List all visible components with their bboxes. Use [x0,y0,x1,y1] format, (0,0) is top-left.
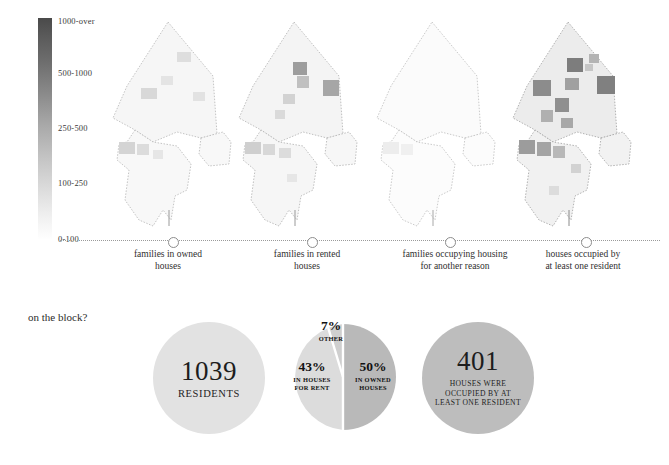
pie-label-other: 7% OTHER [302,319,360,343]
housing-tenure-pie-chart[interactable]: 7% OTHER 43% IN HOUSES FOR RENT 50% IN O… [288,322,398,432]
axis-tick-1[interactable] [168,237,179,248]
map-panel-families-occupying-housing-for-another-reason[interactable] [369,14,508,242]
choropleth-map-row [105,14,661,242]
axis-tick-2[interactable] [307,237,318,248]
axis-label-houses-occupied-by-at-least-one-resident[interactable]: houses occupied by at least one resident [507,248,659,272]
map-shape-2 [231,14,370,242]
pie-text-rent-line1: IN HOUSES [284,376,340,384]
legend-gradient-bar [38,18,52,240]
map-shape-3 [369,14,508,242]
residents-caption: RESIDENTS [178,388,240,399]
legend-label-500-1000: 500-1000 [58,68,92,78]
map-shape-1 [105,14,244,242]
axis-label-4-line1: houses occupied by [507,248,659,260]
houses-caption-line1: HOUSES WERE [450,379,507,389]
axis-label-1-line1: families in owned [98,248,238,260]
map-panel-houses-occupied-by-at-least-one-resident[interactable] [505,14,644,242]
pie-pct-rent: 43% [284,360,340,374]
residents-count: 1039 [181,358,237,385]
legend-label-1000-over: 1000-over [58,16,95,26]
residents-circle[interactable]: 1039 RESIDENTS [153,322,265,434]
houses-caption-line2: OCCUPIED BY AT [445,389,511,399]
axis-label-2-line2: houses [237,260,377,272]
timeline-axis [60,240,660,243]
pie-text-other: OTHER [302,335,360,343]
pie-text-rent-line2: FOR RENT [284,384,340,392]
houses-occupied-circle[interactable]: 401 HOUSES WERE OCCUPIED BY AT LEAST ONE… [422,322,534,434]
pie-label-rent: 43% IN HOUSES FOR RENT [284,360,340,392]
map-shape-4 [505,14,644,242]
axis-label-families-in-rented-houses[interactable]: families in rented houses [237,248,377,272]
axis-label-families-in-owned-houses[interactable]: families in owned houses [98,248,238,272]
axis-label-1-line2: houses [98,260,238,272]
pie-label-owned: 50% IN OWNED HOUSES [346,360,400,392]
axis-tick-3[interactable] [445,237,456,248]
houses-caption-line3: LEAST ONE RESIDENT [435,398,521,408]
axis-tick-4[interactable] [581,237,592,248]
legend-label-100-250: 100-250 [58,178,88,188]
pie-text-owned-line2: HOUSES [346,384,400,392]
pie-pct-other: 7% [302,319,360,333]
houses-count: 401 [457,348,499,375]
population-legend: 1000-over 500-1000 250-500 100-250 0-100 [38,18,52,240]
map-panel-families-in-rented-houses[interactable] [231,14,370,242]
pie-text-owned-line1: IN OWNED [346,376,400,384]
section-question: on the block? [28,311,87,323]
pie-pct-owned: 50% [346,360,400,374]
map-panel-families-in-owned-houses[interactable] [105,14,244,242]
legend-label-250-500: 250-500 [58,123,88,133]
axis-label-4-line2: at least one resident [507,260,659,272]
axis-label-2-line1: families in rented [237,248,377,260]
